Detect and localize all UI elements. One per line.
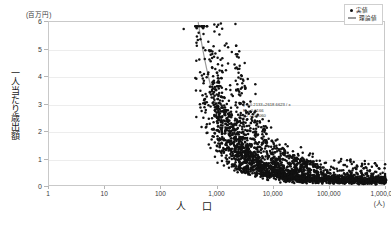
data-point — [211, 57, 214, 60]
data-point — [308, 168, 311, 171]
data-point — [268, 120, 271, 123]
data-point — [241, 156, 244, 159]
data-point — [377, 179, 380, 182]
data-point — [364, 163, 367, 166]
data-point — [223, 96, 226, 99]
data-point — [283, 170, 286, 173]
data-point — [355, 168, 358, 171]
data-point — [203, 79, 206, 82]
data-point — [217, 116, 220, 119]
data-point — [297, 179, 300, 182]
data-point — [267, 173, 270, 176]
data-point — [227, 119, 230, 122]
data-point — [362, 167, 365, 170]
data-point — [303, 166, 306, 169]
data-point — [203, 106, 206, 109]
data-point — [375, 183, 378, 186]
data-point — [340, 158, 343, 161]
data-point — [210, 93, 213, 96]
data-point — [205, 109, 208, 112]
data-point — [206, 25, 209, 28]
data-point — [218, 102, 221, 105]
data-point — [346, 165, 349, 168]
data-point — [218, 81, 221, 84]
data-point — [359, 177, 362, 180]
data-point — [324, 179, 327, 182]
scatter-plot-canvas — [49, 22, 386, 187]
data-point — [218, 108, 221, 111]
x-tick-label: 1 — [46, 190, 50, 197]
data-point — [252, 151, 255, 154]
data-point — [312, 162, 315, 165]
data-point — [274, 158, 277, 161]
data-point — [240, 87, 243, 90]
data-point — [235, 101, 238, 104]
regression-equation: y = 0.2133+2618.6623 / x — [243, 102, 291, 108]
data-point — [237, 56, 240, 59]
data-point — [213, 132, 216, 135]
x-tick-label: 1,000,000 — [371, 190, 391, 197]
data-point — [352, 167, 355, 170]
data-point — [234, 133, 237, 136]
data-point — [273, 168, 276, 171]
data-point — [328, 176, 331, 179]
data-point — [212, 92, 215, 95]
data-point — [213, 99, 216, 102]
chart-legend: 実値 理論値 — [344, 4, 383, 25]
data-point — [261, 138, 264, 141]
data-point — [273, 147, 276, 150]
data-point — [275, 178, 278, 181]
data-point — [249, 130, 252, 133]
data-point — [312, 153, 315, 156]
data-point — [200, 126, 203, 129]
data-point — [308, 171, 311, 174]
data-point — [205, 95, 208, 98]
data-point — [384, 174, 387, 177]
data-point — [219, 127, 222, 130]
data-point — [203, 99, 206, 102]
data-point — [221, 96, 224, 99]
data-point — [333, 171, 336, 174]
data-point — [297, 174, 300, 177]
data-point — [318, 180, 321, 183]
data-point — [352, 174, 355, 177]
data-point — [262, 150, 265, 153]
data-point — [236, 154, 239, 157]
data-point — [246, 125, 249, 128]
data-point — [195, 41, 198, 44]
data-point — [262, 135, 265, 138]
data-point — [223, 164, 226, 167]
dot-marker-icon — [350, 9, 353, 12]
y-tick-label: 3 — [28, 100, 42, 107]
data-point — [217, 63, 220, 66]
data-point — [243, 158, 246, 161]
data-point — [234, 151, 237, 154]
data-point — [195, 25, 198, 28]
data-point — [301, 151, 304, 154]
data-point — [342, 181, 345, 184]
data-point — [329, 172, 332, 175]
data-point — [366, 173, 369, 176]
data-point — [224, 109, 227, 112]
data-point — [325, 161, 328, 164]
x-tick-label: 100 — [155, 190, 166, 197]
data-point — [333, 159, 336, 162]
data-point — [287, 162, 290, 165]
data-point — [206, 123, 209, 126]
data-point — [201, 94, 204, 97]
data-point — [201, 74, 204, 77]
data-point — [364, 182, 367, 185]
data-point — [287, 165, 290, 168]
data-point — [239, 78, 242, 81]
data-point — [196, 35, 199, 38]
data-point — [244, 169, 247, 172]
data-point — [204, 111, 207, 114]
data-point — [302, 177, 305, 180]
data-point — [234, 79, 237, 82]
data-point — [236, 171, 239, 174]
data-point — [233, 141, 236, 144]
data-point — [288, 157, 291, 160]
data-point — [234, 161, 237, 164]
data-point — [297, 158, 300, 161]
data-point — [229, 148, 232, 151]
